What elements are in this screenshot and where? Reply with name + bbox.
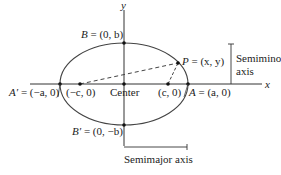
label-semimajor: Semimajor axis — [124, 153, 193, 165]
label-b: B = (0, b) — [81, 28, 124, 41]
ellipse-diagram: y x B = (0, b) B′ = (0, −b) A′ = (−a, 0)… — [0, 0, 281, 175]
focal-line-right — [168, 63, 178, 84]
label-focus-right: (c, 0) — [158, 86, 182, 99]
label-a-prime: A′ = (−a, 0) — [8, 86, 60, 99]
label-focus-left: (−c, 0) — [66, 86, 96, 99]
label-a: A = (a, 0) — [188, 86, 231, 99]
point-p — [176, 61, 180, 65]
y-axis-label: y — [120, 0, 126, 11]
label-semiminor-1: Semiminor — [236, 52, 281, 64]
label-p: P = (x, y) — [181, 55, 225, 68]
label-center: Center — [110, 86, 140, 98]
point-b — [122, 41, 126, 45]
label-semiminor-2: axis — [236, 65, 254, 77]
focal-line-left — [80, 63, 178, 84]
label-b-prime: B′ = (0, −b) — [72, 125, 123, 138]
x-axis-label: x — [264, 78, 270, 90]
